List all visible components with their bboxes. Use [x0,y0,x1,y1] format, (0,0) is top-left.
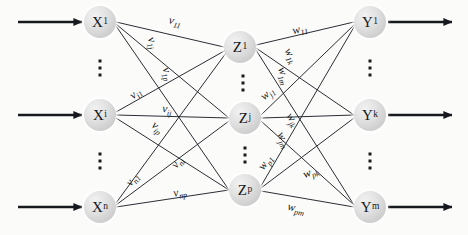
node-label-base: X [92,15,103,30]
edge-zj-yk [261,115,354,118]
edge-xi-z1 [116,50,226,112]
node-xn[interactable]: Xn [84,191,116,223]
node-label-base: Z [233,40,242,55]
edge-zj-y1 [261,25,354,115]
node-label-subscript: n [103,202,108,212]
node-label-subscript: m [371,202,379,212]
node-z1[interactable]: Z1 [224,31,256,63]
edge-zp-y1 [261,27,354,186]
node-y1[interactable]: Y1 [354,6,386,38]
edge-zp-yk [261,118,354,188]
node-label-base: Z [238,183,247,198]
node-label-base: Z [239,111,248,126]
edge-zp-ym [261,191,354,207]
edge-x1-zp [116,26,229,190]
vertical-ellipsis-output-1 [369,60,372,77]
node-label-subscript: k [373,110,378,120]
edge-group-hidden-output [256,22,354,207]
arrow-group-inputs [18,22,82,207]
node-label-base: X [93,108,104,123]
edge-group-input-hidden [116,22,229,207]
vertical-ellipsis-input-2 [99,153,102,170]
node-label-subscript: 1 [373,17,378,27]
edge-z1-ym [256,50,354,205]
vertical-ellipsis-input-1 [99,60,102,77]
edge-x1-z1 [116,22,224,47]
node-label-base: Y [361,200,372,215]
node-label-subscript: i [104,110,107,120]
node-label-subscript: 1 [103,17,108,27]
node-label-subscript: j [248,113,251,123]
node-ym[interactable]: Ym [354,191,386,223]
node-label-subscript: p [247,185,252,195]
arrow-group-outputs [388,22,452,207]
vertical-ellipsis-hidden-2 [244,147,247,164]
node-zj[interactable]: Zj [229,102,261,134]
neural-network-diagram: X1XiXnZ1ZjZpY1YkYm v11v1jv1pvi1vijvipvn1… [0,0,468,235]
node-x1[interactable]: X1 [84,6,116,38]
vertical-ellipsis-hidden-1 [242,75,245,92]
node-zp[interactable]: Zp [229,174,261,206]
node-xi[interactable]: Xi [84,99,116,131]
node-yk[interactable]: Yk [354,99,386,131]
node-label-subscript: 1 [242,42,247,52]
edge-z1-yk [256,48,354,115]
node-label-base: X [92,200,103,215]
edge-z1-y1 [256,22,354,45]
node-label-base: Y [362,15,373,30]
edge-x1-zj [116,24,229,118]
vertical-ellipsis-output-2 [369,153,372,170]
node-label-base: Y [362,108,373,123]
edge-xi-zj [116,115,229,118]
